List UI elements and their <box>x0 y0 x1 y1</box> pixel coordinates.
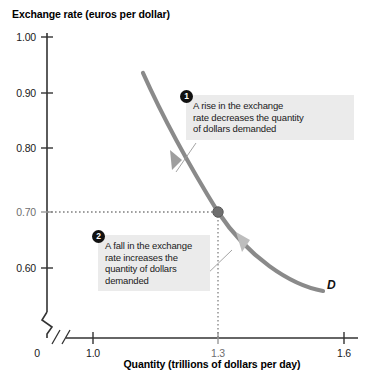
callout-1-arrow-icon <box>170 150 182 170</box>
y-tick-label-1-00: 1.00 <box>2 31 36 43</box>
y-tick-label-0-70: 0.70 <box>2 206 36 218</box>
x-axis-title: Quantity (trillions of dollars per day) <box>0 358 368 370</box>
callout-2-line-2: rate increases the <box>105 252 204 264</box>
y-axis-break-mark <box>42 312 52 338</box>
callout-1-line-3: of dollars demanded <box>193 123 348 135</box>
y-tick-label-0-90: 0.90 <box>2 87 36 99</box>
callout-1-badge: 1 <box>180 90 193 103</box>
callout-box-1: A rise in the exchange rate decreases th… <box>186 95 354 140</box>
equilibrium-point-marker <box>213 207 223 217</box>
y-tick-label-0-80: 0.80 <box>2 142 36 154</box>
x-axis-break-mark <box>52 330 70 344</box>
exchange-rate-demand-figure: Exchange rate (euros per dollar) <box>0 0 368 383</box>
callout-2-badge: 2 <box>92 230 105 243</box>
callout-2-line-4: demanded <box>105 275 204 287</box>
y-tick-label-0-60: 0.60 <box>2 262 36 274</box>
demand-curve-label: D <box>327 278 336 292</box>
callout-box-2: A fall in the exchange rate increases th… <box>98 235 210 291</box>
callout-2-line-1: A fall in the exchange <box>105 240 204 252</box>
callout-2-line-3: quantity of dollars <box>105 263 204 275</box>
callout-1-line-1: A rise in the exchange <box>193 100 348 112</box>
callout-1-line-2: rate decreases the quantity <box>193 112 348 124</box>
plot-area <box>0 0 368 383</box>
